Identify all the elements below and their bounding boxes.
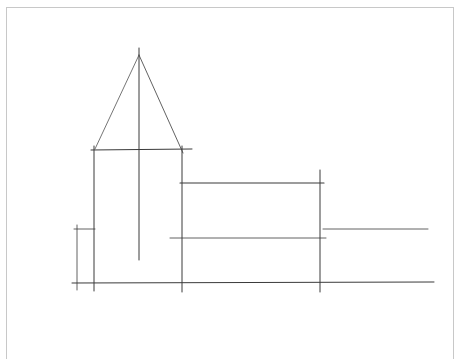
ground-line bbox=[72, 282, 434, 283]
spire-right-edge bbox=[139, 55, 183, 153]
spire-left-edge bbox=[95, 55, 139, 149]
tower-top bbox=[91, 149, 192, 150]
